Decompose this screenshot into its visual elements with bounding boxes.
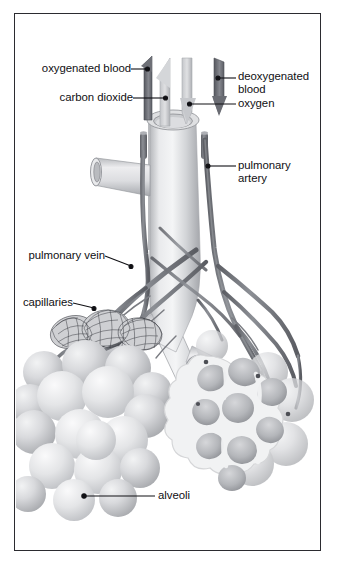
diagram-artwork [0,0,337,567]
label-oxygenated-blood: oxygenated blood [14,62,131,75]
label-pulmonary-vein: pulmonary vein [14,249,105,262]
label-deoxygenated-blood-line1: deoxygenated [238,70,309,83]
label-capillaries: capillaries [14,296,73,309]
respiratory-diagram: oxygenated blood carbon dioxide deoxygen… [0,0,337,567]
label-pulmonary-artery-line1: pulmonary [238,159,291,172]
label-alveoli: alveoli [158,489,190,502]
alveolar-cluster-left [10,308,172,521]
label-pulmonary-artery-line2: artery [238,172,267,185]
label-carbon-dioxide: carbon dioxide [14,91,133,104]
label-deoxygenated-blood-line2: blood [238,83,266,96]
label-oxygen: oxygen [238,97,274,110]
